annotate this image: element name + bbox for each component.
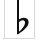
cell-left-rule (4, 0, 5, 39)
cell-bottom-rule (3, 38, 35, 39)
cell-right-rule (34, 0, 35, 39)
flat-icon[interactable] (11, 0, 31, 36)
glyph-cell[interactable] (0, 0, 41, 51)
